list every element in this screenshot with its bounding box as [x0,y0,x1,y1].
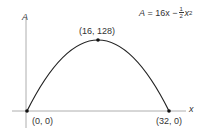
equation-coef: 16x [155,8,170,18]
y-axis-label: A [22,12,28,22]
equation-annotation: A = 16x − 1 2 x2 [139,6,192,19]
vertex-label: (16, 128) [79,26,115,36]
point-root [167,109,171,113]
equation-minus: − [172,8,177,18]
point-vertex [96,38,100,42]
equation-fraction: 1 2 [179,6,184,19]
origin-label: (0, 0) [32,116,53,126]
x-axis-label: x [189,104,194,114]
root-label: (32, 0) [156,116,182,126]
parabola-curve [27,40,169,111]
equation-exp: 2 [189,10,192,16]
point-origin [25,109,29,113]
